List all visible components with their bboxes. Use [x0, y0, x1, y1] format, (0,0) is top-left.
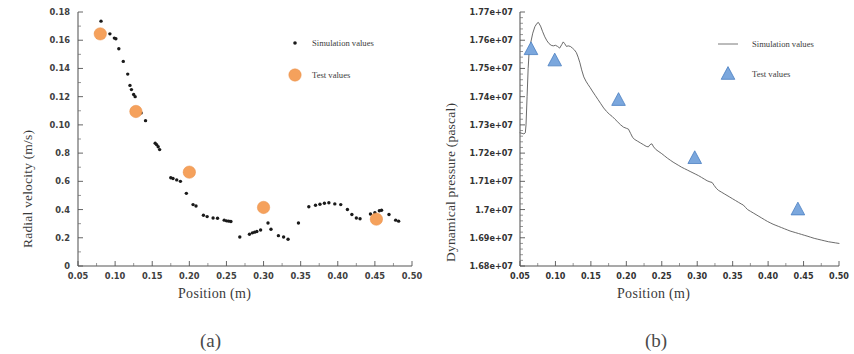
legend-sim-label: Simulation values — [312, 38, 374, 48]
panel-b: 1.68e+071.69e+071.7e+071.71e+071.72e+071… — [427, 0, 854, 354]
panel-b-y-tick-label: 1.75e+07 — [469, 63, 513, 73]
panel-b-x-tick-label: 0.30 — [687, 271, 707, 281]
panel-b-test-series — [524, 42, 805, 215]
panel-a-y-tick-label: 0.6 — [55, 176, 70, 186]
sim-data-point — [397, 219, 400, 222]
panel-b-x-tick-label: 0.40 — [758, 271, 778, 281]
panel-a-simulation-series — [99, 19, 400, 240]
panel-a-y-tick-label: 0.16 — [50, 35, 71, 45]
panel-b-x-tick-label: 0.35 — [723, 271, 743, 281]
sim-data-point — [108, 32, 111, 35]
sim-data-point — [158, 148, 161, 151]
legend-test-label: Test values — [752, 69, 791, 79]
panel-a-y-tick-label: 0.2 — [55, 233, 70, 243]
test-data-point — [612, 93, 626, 106]
panel-b-x-tick-label: 0.45 — [794, 271, 814, 281]
sim-data-point — [185, 192, 188, 195]
panel-a-x-tick-label: 0.15 — [142, 271, 163, 281]
test-data-point — [548, 53, 562, 66]
panel-a-y-tick-label: 0.18 — [50, 7, 71, 17]
sim-data-point — [171, 177, 174, 180]
sim-data-point — [350, 213, 353, 216]
sim-data-point — [175, 178, 178, 181]
sim-data-point — [286, 237, 289, 240]
sim-data-point — [122, 60, 125, 63]
panel-a-x-axis-title: Position (m) — [178, 286, 251, 302]
test-data-point — [524, 42, 538, 55]
panel-b-y-tick-label: 1.73e+07 — [469, 120, 513, 130]
panel-b-x-tick-label: 0.15 — [581, 271, 601, 281]
panel-b-y-tick-label: 1.7e+07 — [475, 205, 513, 215]
panel-b-y-tick-label: 1.77e+07 — [469, 7, 513, 17]
panel-b-x-axis-title: Position (m) — [617, 286, 690, 302]
panel-a-x-tick-label: 0.45 — [365, 271, 386, 281]
test-data-point — [130, 105, 142, 117]
legend-sim-marker-icon — [293, 41, 297, 45]
sim-data-point — [269, 228, 272, 231]
sim-data-point — [133, 95, 136, 98]
sim-data-point — [266, 221, 269, 224]
panel-a-y-tick-label: 0.14 — [50, 63, 71, 73]
panel-b-y-tick-label: 1.74e+07 — [469, 92, 513, 102]
test-data-point — [688, 151, 702, 164]
sim-data-point — [318, 202, 321, 205]
panel-a-y-tick-label: 0.12 — [50, 92, 71, 102]
sim-data-point — [346, 208, 349, 211]
panel-b-y-axis-title: Dynamical pressure (pascal) — [443, 103, 459, 262]
panel-a-y-tick-label: 0.10 — [50, 120, 71, 130]
panel-b-x-tick-label: 0.50 — [829, 271, 849, 281]
panel-a-y-tick-label: 0 — [64, 261, 70, 271]
panel-a-x-tick-label: 0.50 — [402, 271, 423, 281]
panel-b-x-tick-label: 0.20 — [616, 271, 636, 281]
panel-b-simulation-line — [520, 22, 839, 243]
test-data-point — [94, 28, 106, 40]
sim-data-point — [282, 235, 285, 238]
panel-a-x-tick-label: 0.20 — [179, 271, 200, 281]
sim-data-point — [229, 220, 232, 223]
sim-data-point — [191, 203, 194, 206]
sim-data-point — [99, 19, 102, 22]
panel-b-y-tick-label: 1.76e+07 — [469, 35, 513, 45]
panel-a-y-tick-label: 0.4 — [55, 205, 70, 215]
figure-container: 00.20.40.60.80.100.120.140.160.180.050.1… — [0, 0, 854, 354]
sim-data-point — [194, 204, 197, 207]
sim-data-point — [144, 119, 147, 122]
panel-a-x-tick-label: 0.25 — [216, 271, 237, 281]
panel-b-y-tick-label: 1.69e+07 — [469, 233, 513, 243]
legend-sim-label: Simulation values — [752, 39, 814, 49]
panel-a-y-tick-label: 0.8 — [55, 148, 70, 158]
sim-data-point — [387, 213, 390, 216]
sim-data-point — [259, 228, 262, 231]
panel-a-x-tick-label: 0.05 — [68, 271, 89, 281]
panel-a-y-axis-title: Radial velocity (m/s) — [20, 130, 36, 248]
panel-b-x-tick-label: 0.05 — [510, 271, 530, 281]
sim-data-point — [327, 201, 330, 204]
test-data-point — [257, 201, 269, 213]
panel-a: 00.20.40.60.80.100.120.140.160.180.050.1… — [0, 0, 427, 354]
sim-data-point — [358, 217, 361, 220]
sim-data-point — [314, 204, 317, 207]
panel-b-y-tick-label: 1.71e+07 — [469, 176, 513, 186]
sim-data-point — [216, 217, 219, 220]
sim-data-point — [355, 216, 358, 219]
sim-data-point — [211, 216, 214, 219]
sim-data-point — [238, 235, 241, 238]
sim-data-point — [255, 230, 258, 233]
test-data-point — [791, 202, 805, 215]
panel-b-caption: (b) — [645, 330, 667, 352]
panel-b-y-tick-label: 1.72e+07 — [469, 148, 513, 158]
panel-a-test-series — [94, 28, 383, 226]
sim-data-point — [307, 205, 310, 208]
panel-b-y-tick-label: 1.68e+07 — [469, 261, 513, 271]
sim-data-point — [179, 180, 182, 183]
panel-a-caption: (a) — [200, 330, 221, 352]
panel-a-x-tick-label: 0.35 — [290, 271, 311, 281]
legend-test-label: Test values — [312, 70, 351, 80]
sim-data-point — [333, 202, 336, 205]
panel-b-x-tick-label: 0.10 — [545, 271, 565, 281]
sim-data-point — [117, 47, 120, 50]
sim-data-point — [202, 214, 205, 217]
sim-data-point — [128, 84, 131, 87]
sim-data-point — [394, 218, 397, 221]
sim-data-point — [380, 209, 383, 212]
